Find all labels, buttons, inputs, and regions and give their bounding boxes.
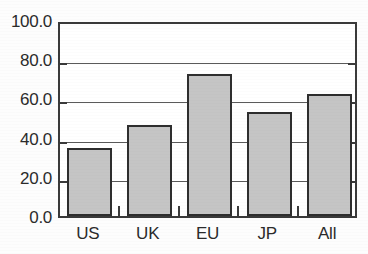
category-tick-mark [237, 206, 239, 218]
bar [127, 125, 172, 216]
category-tick-mark [118, 206, 120, 218]
bar-chart: 0.020.040.060.080.0100.0 USUKEUJPAll [0, 0, 368, 254]
y-axis-tick-label: 0.0 [29, 208, 52, 228]
x-axis-tick-label: US [76, 224, 99, 244]
y-axis-tick-label: 80.0 [20, 51, 52, 71]
x-axis-tick-label: EU [196, 224, 219, 244]
bars-group [60, 24, 355, 216]
plot-area [58, 22, 357, 218]
category-separator-ticks [58, 206, 357, 220]
category-tick-mark [297, 206, 299, 218]
y-axis: 0.020.040.060.080.0100.0 [0, 0, 56, 254]
x-axis-tick-label: UK [136, 224, 159, 244]
category-tick-mark [178, 206, 180, 218]
y-axis-tick-label: 60.0 [20, 90, 52, 110]
y-axis-tick-label: 20.0 [20, 169, 52, 189]
y-axis-tick-label: 100.0 [11, 12, 52, 32]
bar [187, 74, 232, 216]
x-axis: USUKEUJPAll [58, 224, 357, 252]
bar [307, 94, 352, 216]
x-axis-tick-label: JP [258, 224, 277, 244]
bar [247, 112, 292, 216]
y-axis-tick-label: 40.0 [20, 130, 52, 150]
x-axis-tick-label: All [318, 224, 336, 244]
